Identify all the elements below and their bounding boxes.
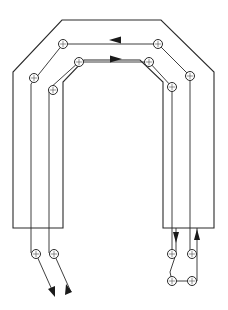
inner-routing-path	[49, 62, 172, 255]
node-circle	[30, 74, 39, 83]
arrow-down-icon	[173, 232, 179, 243]
arrow-right-icon	[110, 56, 122, 63]
node-circle	[59, 40, 68, 49]
node-circle	[168, 83, 177, 92]
node-circle	[154, 40, 163, 49]
exit-line-right	[54, 254, 71, 292]
structure-outline	[13, 20, 214, 228]
node-circle	[188, 277, 197, 286]
arrow-left-icon	[109, 37, 121, 44]
node-circle	[188, 250, 197, 259]
arrow-down-right-icon	[48, 286, 55, 297]
node-circle	[75, 58, 84, 67]
node-circle	[49, 86, 58, 95]
node-circle	[50, 250, 59, 259]
node-circle	[168, 277, 177, 286]
outer-routing-path	[31, 44, 190, 255]
exit-line-left	[36, 254, 53, 292]
arrow-up-icon	[194, 229, 200, 240]
node-circle	[168, 250, 177, 259]
node-circle	[145, 58, 154, 67]
node-circle	[186, 72, 195, 81]
node-circle	[32, 250, 41, 259]
u-shaped-routing-diagram	[0, 0, 228, 310]
